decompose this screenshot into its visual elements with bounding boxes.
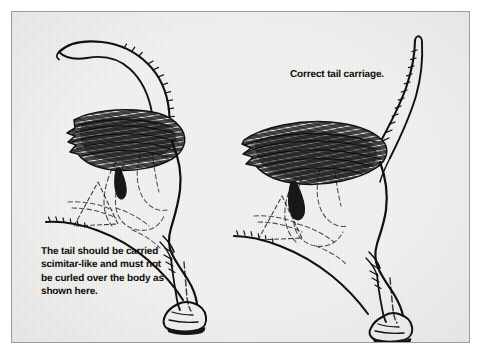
figure-root: The tail should be carried scimitar-like… [0, 0, 482, 355]
rear-foot-correct [370, 313, 413, 342]
hindquarters-outline-correct [234, 162, 403, 323]
pelvis-triangle-incorrect [74, 182, 118, 226]
dog-body-outline-correct [234, 36, 422, 342]
illustration-plate: The tail should be carried scimitar-like… [11, 11, 470, 343]
caption-correct-tail: Correct tail carriage. [290, 68, 430, 81]
dog-illustration-correct-tail [230, 12, 470, 342]
rear-foot-incorrect [164, 302, 207, 335]
caption-incorrect-tail: The tail should be carried scimitar-like… [41, 245, 191, 299]
rump-shading-correct [235, 112, 395, 220]
